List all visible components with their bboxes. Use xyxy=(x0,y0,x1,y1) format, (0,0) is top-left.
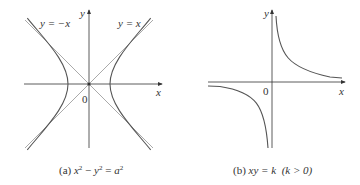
y-axis-label: y xyxy=(263,7,269,19)
hyperbola-third-quadrant-branch xyxy=(208,86,268,148)
y-axis-label: y xyxy=(79,7,85,19)
origin-label: 0 xyxy=(82,93,88,105)
hyperbola-figure: y = −x y = x y x 0 y x 0 xyxy=(0,0,360,185)
hyperbola-first-quadrant-branch xyxy=(276,16,342,78)
label-y-eq-x: y = x xyxy=(117,17,141,29)
x-axis-label: x xyxy=(155,86,161,98)
cap-sq: 2 xyxy=(120,164,124,172)
caption-a-prefix: (a) xyxy=(59,164,74,176)
panel-a: y = −x y = x y x 0 xyxy=(24,7,162,150)
caption-b-equation: xy = k xyxy=(249,164,277,176)
caption-b-prefix: (b) xyxy=(233,164,249,176)
caption-b: (b) xy = k (k > 0) xyxy=(233,164,312,176)
caption-b-condition: (k > 0) xyxy=(282,164,313,176)
caption-a: (a) x2 − y2 = a2 xyxy=(59,164,123,176)
origin-label: 0 xyxy=(263,85,269,97)
cap-minus: − xyxy=(82,164,94,176)
label-y-eq-neg-x: y = −x xyxy=(39,17,70,29)
cap-eq: = xyxy=(102,164,114,176)
panel-b: y x 0 xyxy=(208,7,345,148)
x-axis-label: x xyxy=(338,85,344,97)
